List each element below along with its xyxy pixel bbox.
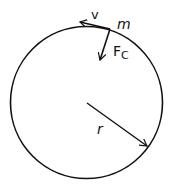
velocity-label: v (91, 8, 99, 21)
force-label-sub: C (121, 49, 129, 62)
force-label: FC (113, 44, 129, 58)
orbit-circle (11, 27, 163, 179)
radius-arrow (87, 103, 147, 146)
mass-label: m (117, 17, 131, 31)
centripetal-force-arrow (100, 29, 110, 60)
radius-label: r (97, 122, 103, 136)
velocity-arrow (80, 22, 110, 29)
force-label-main: F (113, 43, 121, 59)
circular-motion-diagram (0, 0, 171, 186)
